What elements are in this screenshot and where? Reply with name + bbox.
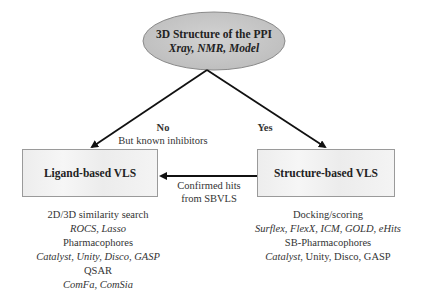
root-node: 3D Structure of the PPI Xray, NMR, Model	[143, 12, 285, 70]
root-subtitle: Xray, NMR, Model	[169, 41, 259, 55]
ligand-method-tools: Catalyst, Unity, Disco, GASP	[8, 250, 188, 264]
ligand-methods-list: 2D/3D similarity search ROCS, Lasso Phar…	[8, 208, 188, 292]
no-sublabel: But known inhibitors	[118, 135, 207, 146]
no-label: No	[157, 122, 170, 133]
yes-branch-label: Yes	[250, 121, 280, 134]
structure-method-tools: Catalyst, Unity, Disco, GASP	[238, 250, 418, 264]
ligand-method-tools: ROCS, Lasso	[8, 222, 188, 236]
ligand-method-heading: QSAR	[8, 264, 188, 278]
structure-method-heading: Docking/scoring	[238, 208, 418, 222]
feedback-line1: Confirmed hits	[177, 180, 240, 191]
structure-method-tools-rest: , Unity, Disco, GASP	[300, 251, 390, 262]
structure-method-tools-italic: Catalyst	[265, 251, 300, 262]
structure-methods-list: Docking/scoring Surflex, FlexX, ICM, GOL…	[238, 208, 418, 264]
ligand-method-heading: Pharmacophores	[8, 236, 188, 250]
structure-method-tools: Surflex, FlexX, ICM, GOLD, eHits	[238, 222, 418, 236]
yes-arrow	[207, 70, 325, 147]
no-branch-label: No But known inhibitors	[108, 121, 218, 147]
root-title: 3D Structure of the PPI	[156, 27, 272, 41]
ligand-method-heading: 2D/3D similarity search	[8, 208, 188, 222]
structure-based-box: Structure-based VLS	[257, 149, 395, 197]
ligand-based-label: Ligand-based VLS	[44, 167, 136, 179]
ligand-based-box: Ligand-based VLS	[22, 149, 158, 197]
yes-label: Yes	[257, 122, 272, 133]
feedback-line2: from SBVLS	[181, 193, 237, 204]
structure-based-label: Structure-based VLS	[274, 167, 378, 179]
structure-method-heading: SB-Pharmacophores	[238, 236, 418, 250]
feedback-label: Confirmed hits from SBVLS	[160, 179, 258, 205]
ligand-method-tools: ComFa, ComSia	[8, 278, 188, 292]
